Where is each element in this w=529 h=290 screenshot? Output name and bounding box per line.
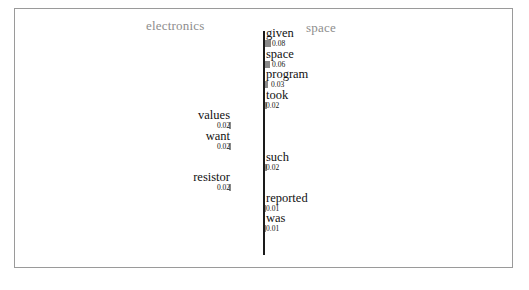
bar-row: was0.01 bbox=[15, 214, 512, 234]
bar-word-label: space bbox=[266, 47, 294, 61]
bar-word-label: given bbox=[266, 26, 294, 40]
bar-word-label: was bbox=[266, 211, 285, 225]
chart-figure: electronics space given0.08space0.06prog… bbox=[14, 8, 513, 268]
bar-row: resistor0.02 bbox=[15, 173, 512, 193]
bar-word-label: program bbox=[266, 67, 308, 81]
bar-word-label: took bbox=[266, 88, 288, 102]
bar-row: given0.08 bbox=[15, 29, 512, 49]
bar-word-label: reported bbox=[266, 191, 308, 205]
bar-word-label: resistor bbox=[193, 170, 230, 184]
plot-area: electronics space given0.08space0.06prog… bbox=[15, 9, 512, 267]
bar-row: want0.02 bbox=[15, 132, 512, 152]
bar-word-label: such bbox=[266, 150, 289, 164]
bar-row: reported0.01 bbox=[15, 194, 512, 214]
bar-value-label: 0.02 bbox=[217, 183, 230, 193]
bar-word-label: want bbox=[206, 129, 230, 143]
bar-value-label: 0.01 bbox=[266, 224, 279, 234]
bar-word-label: values bbox=[198, 108, 230, 122]
bar-row: values0.02 bbox=[15, 111, 512, 131]
bar-value-label: 0.02 bbox=[266, 101, 279, 111]
bar-value-label: 0.02 bbox=[266, 163, 279, 173]
bar-row: such0.02 bbox=[15, 153, 512, 173]
bar-row: program0.03 bbox=[15, 70, 512, 90]
bar-value-label: 0.02 bbox=[217, 142, 230, 152]
bar-row: space0.06 bbox=[15, 50, 512, 70]
bar-row: took0.02 bbox=[15, 91, 512, 111]
